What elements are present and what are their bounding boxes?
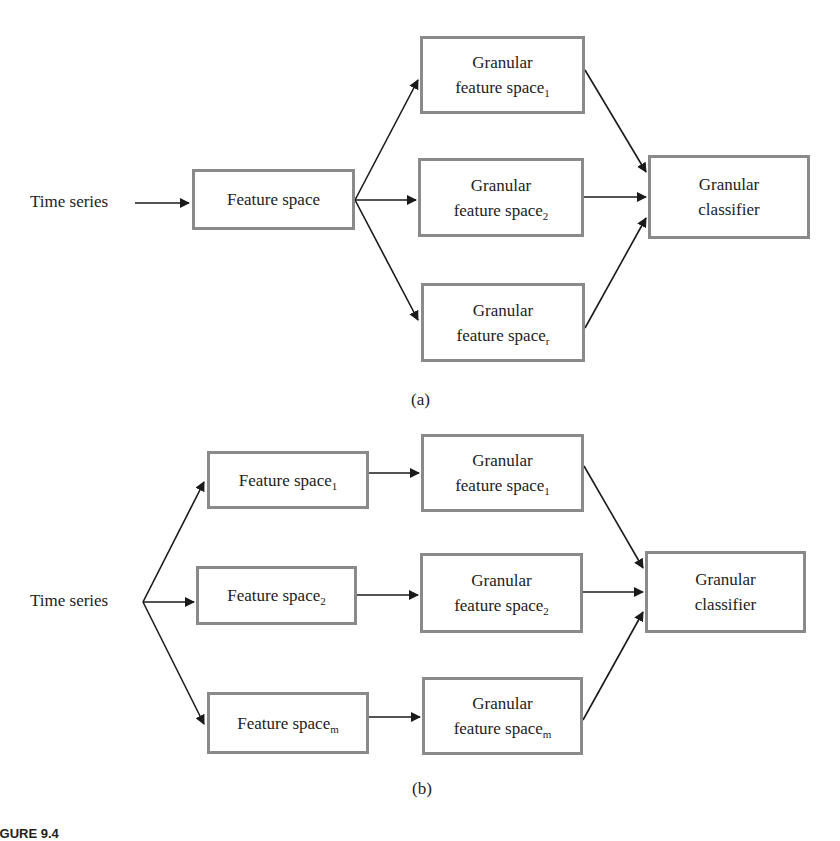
box-label: Feature spacem <box>237 711 339 736</box>
granular-feature-space-1-box-b: Granular feature space1 <box>421 434 584 512</box>
box-line2: feature space1 <box>455 75 550 100</box>
box-line1: Granular <box>471 568 531 593</box>
box-line2: feature spacer <box>457 323 550 348</box>
time-series-label-a: Time series <box>30 192 108 212</box>
granular-classifier-box-b: Granular classifier <box>645 551 806 633</box>
panel-label-b: (b) <box>412 779 432 799</box>
feature-space-m-box-b: Feature spacem <box>207 692 369 754</box>
feature-space-2-box-b: Feature space2 <box>196 566 357 625</box>
box-label: Feature space1 <box>239 468 337 493</box>
box-line1: Granular <box>695 567 755 592</box>
box-line2: classifier <box>698 197 759 222</box>
granular-classifier-box-a: Granular classifier <box>648 155 810 239</box>
box-line1: Granular <box>471 173 531 198</box>
box-line2: feature spacem <box>454 716 552 741</box>
box-line1: Granular <box>699 172 759 197</box>
granular-feature-space-2-box-a: Granular feature space2 <box>418 158 584 237</box>
granular-feature-space-r-box-a: Granular feature spacer <box>421 283 585 362</box>
feature-space-box-a: Feature space <box>192 169 355 230</box>
box-line2: feature space1 <box>455 473 550 498</box>
time-series-label-b: Time series <box>30 591 108 611</box>
box-line2: feature space2 <box>454 198 549 223</box>
box-line1: Granular <box>472 691 532 716</box>
box-line1: Granular <box>473 298 533 323</box>
box-line1: Granular <box>472 50 532 75</box>
box-line2: classifier <box>695 592 756 617</box>
feature-space-label: Feature space <box>227 187 320 212</box>
box-line1: Granular <box>472 448 532 473</box>
box-line2: feature space2 <box>454 593 549 618</box>
granular-feature-space-2-box-b: Granular feature space2 <box>420 553 583 633</box>
panel-label-a: (a) <box>411 390 430 410</box>
granular-feature-space-m-box-b: Granular feature spacem <box>422 677 583 755</box>
box-label: Feature space2 <box>227 583 325 608</box>
figure-caption: IGURE 9.4 <box>0 826 59 841</box>
feature-space-1-box-b: Feature space1 <box>207 451 369 509</box>
granular-feature-space-1-box-a: Granular feature space1 <box>420 36 585 114</box>
